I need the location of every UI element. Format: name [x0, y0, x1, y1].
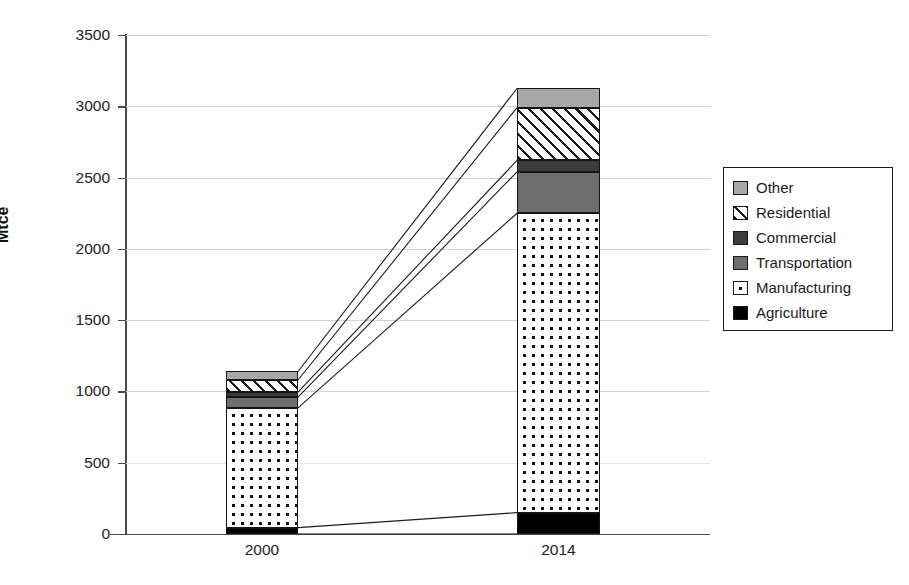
gridline-3500 — [126, 35, 710, 36]
y-tick-label-0: 0 — [48, 525, 110, 543]
y-tick-3500 — [118, 35, 126, 36]
legend-item-other[interactable]: Other — [733, 175, 892, 200]
bar-segment-manufacturing-2000[interactable] — [226, 408, 298, 528]
plot-area — [126, 35, 710, 534]
bar-segment-commercial-2000[interactable] — [226, 392, 298, 397]
legend-label-manufacturing: Manufacturing — [756, 280, 851, 295]
y-tick-3000 — [118, 106, 126, 107]
bar-segment-other-2000[interactable] — [226, 371, 298, 380]
y-tick-label-500: 500 — [48, 454, 110, 472]
bar-segment-commercial-2014[interactable] — [517, 160, 600, 171]
legend-label-other: Other — [756, 180, 794, 195]
y-tick-label-2500: 2500 — [48, 169, 110, 187]
legend: Other Residential Commercial Transportat… — [723, 167, 893, 331]
x-axis-line — [110, 534, 710, 535]
bar-segment-transportation-2014[interactable] — [517, 172, 600, 213]
bar-segment-other-2014[interactable] — [517, 88, 600, 107]
legend-label-transportation: Transportation — [756, 255, 852, 270]
stacked-bar-chart: Mtce Other Residential Commercial Transp… — [0, 0, 909, 585]
y-tick-500 — [118, 463, 126, 464]
gridline-2500 — [126, 178, 710, 179]
legend-item-residential[interactable]: Residential — [733, 200, 892, 225]
y-tick-1500 — [118, 320, 126, 321]
y-tick-1000 — [118, 391, 126, 392]
bar-segment-manufacturing-2014[interactable] — [517, 213, 600, 512]
bar-segment-transportation-2000[interactable] — [226, 397, 298, 408]
y-tick-label-2000: 2000 — [48, 240, 110, 258]
bar-2000[interactable] — [226, 35, 298, 534]
legend-item-agriculture[interactable]: Agriculture — [733, 300, 892, 325]
y-tick-2000 — [118, 249, 126, 250]
legend-swatch-other-icon — [733, 181, 748, 195]
legend-swatch-transportation-icon — [733, 256, 748, 270]
bar-2014[interactable] — [517, 35, 600, 534]
x-tick-label-2014: 2014 — [504, 541, 614, 559]
bar-segment-agriculture-2014[interactable] — [517, 513, 600, 534]
x-tick-label-2000: 2000 — [207, 541, 317, 559]
bar-segment-residential-2000[interactable] — [226, 380, 298, 392]
legend-swatch-commercial-icon — [733, 231, 748, 245]
y-tick-label-1500: 1500 — [48, 311, 110, 329]
y-tick-label-1000: 1000 — [48, 382, 110, 400]
bar-segment-residential-2014[interactable] — [517, 108, 600, 161]
legend-swatch-manufacturing-icon — [733, 281, 748, 295]
bar-segment-agriculture-2000[interactable] — [226, 528, 298, 534]
legend-swatch-agriculture-icon — [733, 306, 748, 320]
gridline-3000 — [126, 106, 710, 107]
legend-label-residential: Residential — [756, 205, 830, 220]
legend-item-commercial[interactable]: Commercial — [733, 225, 892, 250]
y-tick-2500 — [118, 178, 126, 179]
legend-item-transportation[interactable]: Transportation — [733, 250, 892, 275]
gridline-2000 — [126, 249, 710, 250]
y-axis-title: Mtce — [0, 207, 12, 243]
legend-swatch-residential-icon — [733, 206, 748, 220]
legend-label-commercial: Commercial — [756, 230, 836, 245]
gridline-500 — [126, 463, 710, 464]
y-tick-label-3500: 3500 — [48, 26, 110, 44]
y-tick-label-3000: 3000 — [48, 97, 110, 115]
legend-label-agriculture: Agriculture — [756, 305, 828, 320]
gridline-1000 — [126, 391, 710, 392]
y-tick-0 — [118, 534, 126, 535]
gridline-1500 — [126, 320, 710, 321]
legend-item-manufacturing[interactable]: Manufacturing — [733, 275, 892, 300]
